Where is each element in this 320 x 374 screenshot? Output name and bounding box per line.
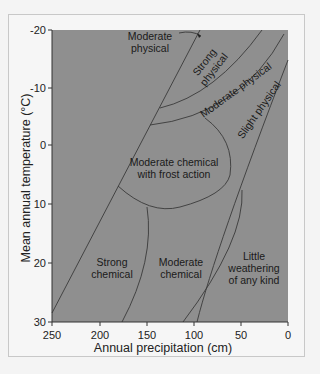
x-tick: 50	[235, 329, 247, 341]
y-tick: 30	[34, 316, 46, 328]
x-tick: 200	[91, 329, 109, 341]
region-label-moderate-physical: Moderate	[128, 30, 173, 42]
region-label-moderate-chemical: Moderate	[159, 256, 204, 268]
region-label-strong-chemical: chemical	[91, 268, 132, 280]
x-axis-title: Annual precipitation (cm)	[94, 341, 232, 355]
y-tick: -20	[30, 24, 46, 36]
y-axis-title: Mean annual temperature (°C)	[19, 94, 33, 263]
region-label-little-weathering: weathering	[227, 262, 280, 274]
x-tick: 250	[43, 329, 61, 341]
y-tick: -10	[30, 82, 46, 94]
region-label-strong-chemical: Strong	[97, 256, 128, 268]
y-tick: 0	[40, 139, 46, 151]
x-tick: 100	[185, 329, 203, 341]
y-tick: 10	[34, 198, 46, 210]
y-tick: 20	[34, 257, 46, 269]
region-label-little-weathering: Little	[243, 250, 265, 262]
weathering-diagram: -20 -10 0 10 20 30 250 200 150 100 50 0 …	[0, 0, 320, 374]
region-label-moderate-chemical: chemical	[160, 268, 201, 280]
x-tick-labels: 250 200 150 100 50 0	[43, 329, 291, 341]
x-tick: 0	[285, 329, 291, 341]
region-label-moderate-chemical-frost: Moderate chemical	[130, 156, 219, 168]
region-label-little-weathering: of any kind	[229, 274, 280, 286]
region-label-moderate-physical: physical	[131, 42, 169, 54]
region-label-moderate-chemical-frost: with frost action	[137, 168, 211, 180]
x-tick: 150	[138, 329, 156, 341]
